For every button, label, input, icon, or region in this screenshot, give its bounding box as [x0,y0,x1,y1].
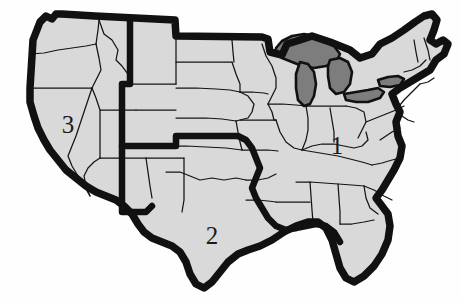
us-regions-map-figure: 1 2 3 [0,0,460,301]
region-label-2: 2 [206,222,219,249]
region-label-3: 3 [62,111,75,138]
lake-michigan [296,62,316,106]
us-map-svg: 1 2 3 [0,0,460,301]
region-label-1: 1 [331,132,344,159]
